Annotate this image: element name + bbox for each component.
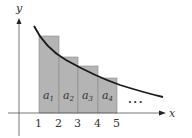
integral-test-diagram: y x 1 2 3 4 5 a1 a2 a3 a4 ... xyxy=(0,0,192,138)
x-axis-arrow-icon xyxy=(159,111,166,116)
x-axis-label: x xyxy=(169,107,176,120)
y-axis-label: y xyxy=(15,2,23,15)
tick-label-1: 1 xyxy=(35,117,42,130)
tick-label-5: 5 xyxy=(113,117,120,130)
ellipsis: ... xyxy=(128,93,144,106)
tick-label-4: 4 xyxy=(94,117,101,130)
y-axis-arrow-icon xyxy=(17,18,22,24)
tick-label-3: 3 xyxy=(74,117,81,130)
tick-label-2: 2 xyxy=(55,117,62,130)
